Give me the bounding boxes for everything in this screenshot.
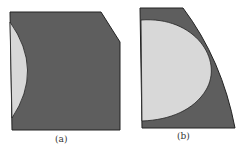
figure-a: [10, 12, 120, 130]
diagram-canvas: [0, 0, 244, 150]
figure-b: [140, 8, 235, 128]
figure-a-caption: (a): [55, 134, 67, 144]
figure-b-caption: (b): [177, 131, 190, 141]
